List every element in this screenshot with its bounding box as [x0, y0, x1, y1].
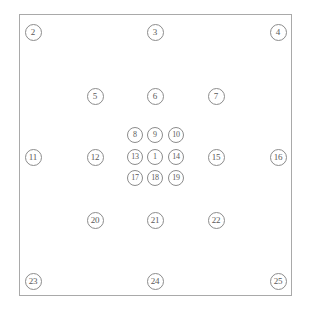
node-label: 2 [31, 27, 35, 36]
node-3[interactable]: 3 [147, 24, 164, 41]
node-label: 19 [172, 174, 180, 182]
node-label: 24 [151, 276, 160, 285]
node-13[interactable]: 13 [127, 149, 143, 165]
node-label: 7 [214, 91, 218, 100]
node-label: 14 [172, 153, 180, 161]
node-8[interactable]: 8 [127, 127, 143, 143]
node-label: 20 [91, 215, 100, 224]
node-19[interactable]: 19 [168, 170, 184, 186]
node-4[interactable]: 4 [270, 24, 287, 41]
node-15[interactable]: 15 [208, 149, 225, 166]
node-label: 25 [274, 276, 283, 285]
node-label: 21 [151, 215, 160, 224]
node-label: 5 [93, 91, 97, 100]
node-label: 9 [153, 131, 157, 139]
node-7[interactable]: 7 [208, 88, 225, 105]
node-25[interactable]: 25 [270, 273, 287, 290]
node-5[interactable]: 5 [87, 88, 104, 105]
node-label: 18 [151, 174, 159, 182]
node-label: 16 [274, 152, 283, 161]
node-label: 12 [91, 152, 100, 161]
node-10[interactable]: 10 [168, 127, 184, 143]
node-label: 4 [276, 27, 280, 36]
node-18[interactable]: 18 [147, 170, 163, 186]
node-label: 6 [153, 91, 157, 100]
node-17[interactable]: 17 [127, 170, 143, 186]
node-23[interactable]: 23 [25, 273, 42, 290]
diagram-canvas: 2345678910111213114151617181920212223242… [0, 0, 310, 316]
node-21[interactable]: 21 [147, 212, 164, 229]
node-2[interactable]: 2 [25, 24, 42, 41]
node-20[interactable]: 20 [87, 212, 104, 229]
node-label: 15 [212, 152, 221, 161]
node-14[interactable]: 14 [168, 149, 184, 165]
node-16[interactable]: 16 [270, 149, 287, 166]
node-12[interactable]: 12 [87, 149, 104, 166]
node-11[interactable]: 11 [25, 149, 42, 166]
node-label: 10 [172, 131, 180, 139]
node-label: 17 [131, 174, 139, 182]
node-6[interactable]: 6 [147, 88, 164, 105]
node-24[interactable]: 24 [147, 273, 164, 290]
node-label: 3 [153, 27, 157, 36]
node-label: 8 [133, 131, 137, 139]
node-label: 13 [131, 153, 139, 161]
node-1[interactable]: 1 [147, 149, 163, 165]
node-label: 23 [29, 276, 38, 285]
node-9[interactable]: 9 [147, 127, 163, 143]
node-label: 22 [212, 215, 221, 224]
node-22[interactable]: 22 [208, 212, 225, 229]
node-label: 11 [29, 152, 37, 161]
node-label: 1 [153, 153, 157, 161]
